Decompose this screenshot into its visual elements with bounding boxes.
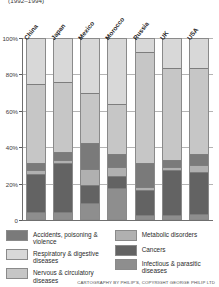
segment-morocco-cancers xyxy=(108,176,126,189)
legend-column-left: Accidents, poisoning & violenceRespirato… xyxy=(6,230,111,284)
segment-russia-nervous-circulatory-diseases xyxy=(136,52,154,164)
segment-uk-infectious-parasitic-diseases xyxy=(163,215,181,219)
legend-item-cancers[interactable]: Cancers xyxy=(115,245,214,256)
segment-china-respiratory-digestive-diseases xyxy=(27,39,45,84)
segment-china-accidents-poisoning-violence xyxy=(27,163,45,170)
bar-japan[interactable] xyxy=(53,38,73,220)
bar-uk[interactable] xyxy=(162,38,182,220)
chart-plot-area: 100%80%60%40%20%0 xyxy=(23,38,213,220)
legend-item-metabolic[interactable]: Metabolic disorders xyxy=(115,230,214,241)
legend-swatch-accidents xyxy=(6,230,28,241)
segment-usa-metabolic-disorders xyxy=(190,165,208,172)
y-axis-label-100: 100% xyxy=(2,35,18,42)
chart-legend: Accidents, poisoning & violenceRespirato… xyxy=(6,230,214,284)
bar-mexico[interactable] xyxy=(80,38,100,220)
bar-russia[interactable] xyxy=(135,38,155,220)
bar-morocco[interactable] xyxy=(107,38,127,220)
legend-swatch-nervous xyxy=(6,268,28,279)
segment-uk-cancers xyxy=(163,170,181,215)
segment-japan-accidents-poisoning-violence xyxy=(54,152,72,159)
segment-china-infectious-parasitic-diseases xyxy=(27,212,45,219)
bar-china[interactable] xyxy=(26,38,46,220)
y-tick-20 xyxy=(19,184,22,185)
segment-usa-nervous-circulatory-diseases xyxy=(190,68,208,154)
segment-mexico-metabolic-disorders xyxy=(81,169,99,185)
segment-morocco-infectious-parasitic-diseases xyxy=(108,188,126,219)
legend-label-cancers: Cancers xyxy=(142,245,166,253)
legend-swatch-cancers xyxy=(115,245,137,256)
segment-usa-infectious-parasitic-diseases xyxy=(190,214,208,219)
segment-morocco-metabolic-disorders xyxy=(108,167,126,176)
y-tick-80 xyxy=(19,74,22,75)
segment-japan-infectious-parasitic-diseases xyxy=(54,212,72,219)
chart-title: (1992–1994) xyxy=(8,0,44,4)
legend-item-infectious[interactable]: Infectious & parasitic diseases xyxy=(115,259,214,275)
segment-japan-cancers xyxy=(54,163,72,212)
segment-russia-infectious-parasitic-diseases xyxy=(136,215,154,219)
segment-morocco-nervous-circulatory-diseases xyxy=(108,104,126,154)
y-axis-label-80: 80% xyxy=(6,71,18,78)
legend-label-infectious: Infectious & parasitic diseases xyxy=(142,259,214,275)
segment-morocco-respiratory-digestive-diseases xyxy=(108,39,126,104)
segment-uk-accidents-poisoning-violence xyxy=(163,160,181,167)
bar-usa[interactable] xyxy=(189,38,209,220)
segment-uk-nervous-circulatory-diseases xyxy=(163,68,181,160)
y-tick-60 xyxy=(19,111,22,112)
segment-uk-respiratory-digestive-diseases xyxy=(163,39,181,68)
credit-line: CARTOGRAPHY BY PHILIP'S, COPYRIGHT GEORG… xyxy=(77,280,215,285)
legend-swatch-metabolic xyxy=(115,230,137,241)
legend-column-right: Metabolic disordersCancersInfectious & p… xyxy=(115,230,214,284)
segment-russia-cancers xyxy=(136,190,154,215)
legend-item-accidents[interactable]: Accidents, poisoning & violence xyxy=(6,230,111,246)
y-axis-label-20: 20% xyxy=(6,180,18,187)
segment-mexico-accidents-poisoning-violence xyxy=(81,143,99,168)
legend-item-respiratory[interactable]: Respiratory & digestive diseases xyxy=(6,249,111,265)
segment-china-nervous-circulatory-diseases xyxy=(27,84,45,163)
segment-usa-respiratory-digestive-diseases xyxy=(190,39,208,68)
segment-mexico-nervous-circulatory-diseases xyxy=(81,93,99,143)
segment-russia-accidents-poisoning-violence xyxy=(136,163,154,186)
y-tick-40 xyxy=(19,147,22,148)
legend-label-metabolic: Metabolic disorders xyxy=(142,230,197,238)
segment-usa-cancers xyxy=(190,172,208,213)
legend-swatch-infectious xyxy=(115,259,137,270)
legend-label-accidents: Accidents, poisoning & violence xyxy=(33,230,111,246)
segment-mexico-respiratory-digestive-diseases xyxy=(81,39,99,93)
y-axis-label-40: 40% xyxy=(6,144,18,151)
y-tick-100 xyxy=(19,38,22,39)
legend-label-respiratory: Respiratory & digestive diseases xyxy=(33,249,111,265)
y-axis-label-60: 60% xyxy=(6,107,18,114)
segment-mexico-infectious-parasitic-diseases xyxy=(81,203,99,219)
segment-usa-accidents-poisoning-violence xyxy=(190,154,208,165)
segment-morocco-accidents-poisoning-violence xyxy=(108,154,126,167)
legend-swatch-respiratory xyxy=(6,249,28,260)
y-tick-0 xyxy=(19,220,22,221)
segment-china-cancers xyxy=(27,174,45,212)
segment-japan-respiratory-digestive-diseases xyxy=(54,39,72,82)
segment-japan-nervous-circulatory-diseases xyxy=(54,82,72,152)
gridline-0 xyxy=(23,220,213,221)
segment-mexico-cancers xyxy=(81,185,99,203)
y-axis-label-0: 0 xyxy=(15,217,18,224)
segment-russia-respiratory-digestive-diseases xyxy=(136,39,154,52)
